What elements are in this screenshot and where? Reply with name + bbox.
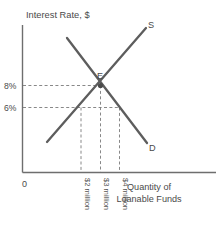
x-tick-label-2m: $2 million: [83, 178, 92, 210]
x-tick-label-3m: $3 million: [102, 178, 111, 210]
equilibrium-point: [98, 83, 103, 88]
demand-curve-label: D: [149, 143, 156, 153]
loanable-funds-chart: Interest Rate, $ S D E 8% 6% 0 $2 millio…: [0, 0, 217, 237]
y-axis-title: Interest Rate, $: [26, 10, 90, 20]
x-axis-title-line1: Quantity of: [127, 182, 171, 192]
y-tick-label-8: 8%: [4, 81, 17, 91]
equilibrium-label: E: [97, 71, 103, 81]
y-tick-label-6: 6%: [4, 103, 17, 113]
chart-svg: Interest Rate, $ S D E 8% 6% 0 $2 millio…: [0, 0, 217, 237]
cropped-footer-text: [6, 227, 211, 236]
supply-curve-label: S: [148, 20, 154, 30]
origin-label: 0: [22, 179, 27, 189]
supply-curve: [47, 28, 146, 142]
demand-curve: [67, 38, 147, 143]
x-axis-title-line2: Loanable Funds: [116, 194, 182, 204]
